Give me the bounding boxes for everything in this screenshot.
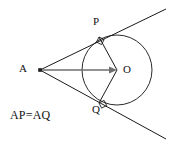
point-label-O: O	[123, 64, 131, 75]
tangent-line-upper	[40, 9, 166, 70]
radius-OP	[99, 37, 117, 70]
point-label-P: P	[93, 16, 99, 27]
vertex-dot-A	[38, 68, 42, 72]
point-label-A: A	[19, 63, 27, 74]
geometry-figure: P Q O A AP=AQ	[0, 0, 172, 147]
tangent-line-lower	[40, 70, 166, 139]
point-label-Q: Q	[92, 104, 100, 115]
radius-OQ	[99, 70, 117, 103]
relation-label: AP=AQ	[10, 109, 50, 121]
